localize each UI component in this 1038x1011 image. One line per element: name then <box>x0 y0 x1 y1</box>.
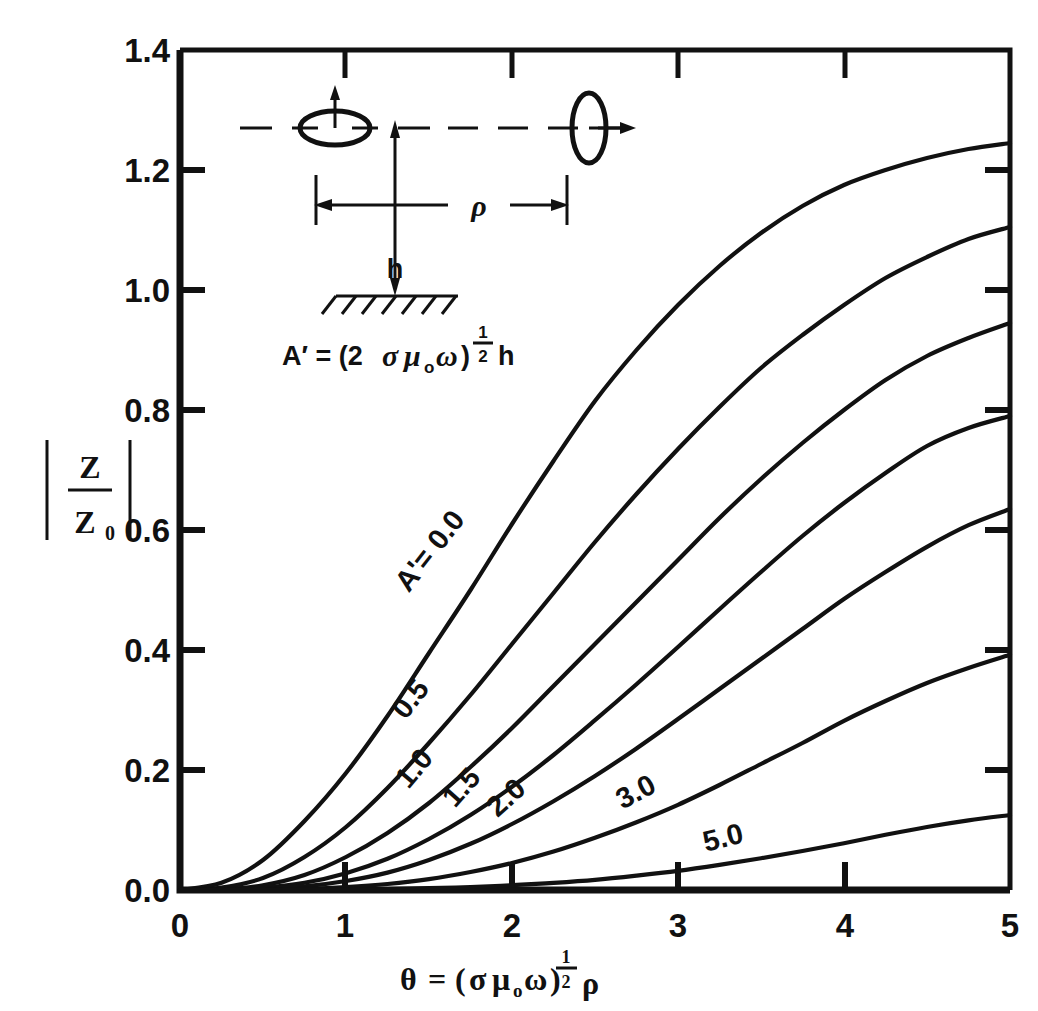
y-tick-label: 0.8 <box>124 392 170 429</box>
x-axis-title-omega: ω <box>524 961 547 997</box>
y-axis-ticks <box>180 170 1010 770</box>
inset-diagram: h ρ <box>240 85 636 377</box>
x-axis-title-rho: ρ <box>582 965 599 1001</box>
x-axis-title-exponent-denominator: 2 <box>562 972 571 992</box>
formula-omega: ω <box>436 339 458 372</box>
x-axis-title-equals: = <box>428 961 446 997</box>
vertical-loop-antenna-icon <box>572 93 636 163</box>
horizontal-loop-antenna-icon <box>300 85 370 145</box>
formula-h: h <box>498 341 515 371</box>
y-tick-label: 0.4 <box>124 632 171 669</box>
data-curve <box>180 227 1010 890</box>
formula-lhs: A′ = (2 <box>282 341 363 371</box>
y-tick-label: 1.0 <box>124 272 170 309</box>
curve-label: 1.5 <box>436 761 487 812</box>
curve-label: 1.0 <box>389 742 439 793</box>
curve-label: 5.0 <box>700 817 747 858</box>
x-tick-labels: 0 1 2 3 4 5 <box>171 907 1019 944</box>
formula-exponent-denominator: 2 <box>478 347 487 366</box>
x-axis-title-open-paren: ( <box>455 961 466 997</box>
y-tick-label: 1.2 <box>124 152 170 189</box>
x-axis-title: θ = ( σ μ o ω ) 1 2 ρ <box>400 947 599 1001</box>
y-axis-title-denominator: Z <box>74 504 95 540</box>
data-curve <box>180 323 1010 890</box>
y-tick-label: 0.2 <box>124 752 170 789</box>
distance-label: ρ <box>470 189 486 222</box>
x-axis-title-sigma: σ <box>469 961 487 997</box>
height-indicator: h <box>387 120 404 296</box>
curve-label: 0.5 <box>385 673 435 724</box>
x-tick-label: 1 <box>336 907 354 944</box>
plot-frame <box>180 50 1010 890</box>
formula-close-paren: ) <box>461 341 470 371</box>
y-axis-title-numerator: Z <box>79 449 100 485</box>
formula-mu: μ <box>402 339 421 372</box>
x-axis-title-mu-subscript: o <box>513 980 523 1001</box>
figure-root: 1.4 1.2 1.0 0.8 0.6 0.4 0.2 0.0 0 1 2 3 <box>0 0 1038 1011</box>
data-curves <box>180 143 1010 890</box>
curve-label: A'= 0.0 <box>388 504 471 597</box>
x-tick-label: 0 <box>171 907 189 944</box>
formula-mu-subscript: o <box>424 358 434 377</box>
inset-formula: A′ = (2 σ μ o ω ) 1 2 h <box>282 323 515 377</box>
x-axis-title-mu: μ <box>492 961 510 997</box>
x-tick-label: 3 <box>669 907 687 944</box>
x-axis-title-close-paren: ) <box>550 961 561 997</box>
x-axis-title-theta: θ <box>400 961 417 997</box>
y-axis-title: Z Z 0 <box>47 440 130 544</box>
curve-labels: A'= 0.00.51.01.52.03.05.0 <box>385 504 746 858</box>
formula-sigma: σ <box>382 339 399 372</box>
x-tick-label: 5 <box>1001 907 1019 944</box>
y-axis-title-denominator-subscript: 0 <box>105 522 115 544</box>
data-curve <box>180 815 1010 890</box>
distance-indicator: ρ <box>314 175 569 225</box>
y-tick-label: 0.0 <box>124 872 170 909</box>
height-label: h <box>387 254 404 284</box>
x-axis-title-exponent-numerator: 1 <box>562 947 571 967</box>
hatched-ground-plane-icon <box>322 296 458 314</box>
x-tick-label: 2 <box>503 907 521 944</box>
x-tick-label: 4 <box>836 907 855 944</box>
curve-label: 3.0 <box>610 768 661 815</box>
formula-exponent-numerator: 1 <box>478 323 487 342</box>
chart-canvas: 1.4 1.2 1.0 0.8 0.6 0.4 0.2 0.0 0 1 2 3 <box>0 0 1038 1011</box>
y-tick-label: 1.4 <box>124 32 171 69</box>
